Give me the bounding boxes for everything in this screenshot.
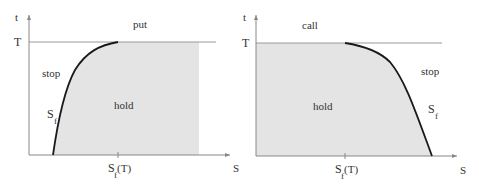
hold-region-label: hold bbox=[114, 99, 134, 111]
stop-region-label: stop bbox=[421, 65, 440, 77]
sf-curve-label-sub: f bbox=[435, 111, 438, 121]
panel-title: call bbox=[302, 19, 318, 31]
hold-region-label: hold bbox=[313, 100, 333, 112]
sf-curve-label: S bbox=[428, 102, 435, 116]
t-axis-label: t bbox=[243, 11, 246, 23]
t-axis-label: t bbox=[15, 11, 18, 23]
s-axis-label: S bbox=[233, 162, 239, 174]
put-panel: t T put stop hold S f S f (T) S bbox=[14, 11, 239, 180]
sf-curve-label-sub: f bbox=[54, 116, 57, 126]
T-tick-label: T bbox=[242, 36, 250, 50]
hold-region bbox=[256, 43, 432, 156]
s-axis-label: S bbox=[460, 164, 466, 176]
call-panel: t T call stop hold S f S f (T) S bbox=[242, 11, 466, 181]
figure: t T put stop hold S f S f (T) S t T call… bbox=[0, 0, 479, 192]
stop-region-label: stop bbox=[42, 67, 61, 79]
panel-title: put bbox=[133, 18, 147, 30]
sf-curve-label: S bbox=[47, 107, 54, 121]
sf-T-label-suffix: (T) bbox=[344, 163, 358, 176]
T-tick-label: T bbox=[14, 35, 22, 49]
sf-T-label-suffix: (T) bbox=[117, 162, 131, 175]
